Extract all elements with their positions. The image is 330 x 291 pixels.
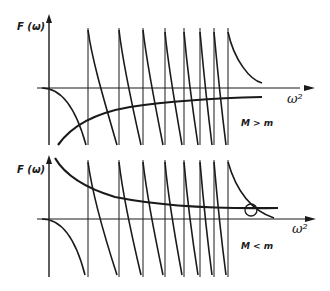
bottom-panel xyxy=(37,155,316,277)
top-x-arrow-icon xyxy=(304,85,315,91)
top-condition-label: M > m xyxy=(241,118,273,128)
intersection-marker-icon xyxy=(245,204,257,216)
top-mass-curve xyxy=(58,97,262,145)
bottom-y-label: F (ω) xyxy=(17,164,45,175)
top-y-arrow-icon xyxy=(46,14,52,23)
diagram: F (ω) ω² M > m F ( xyxy=(0,0,330,291)
top-y-label: F (ω) xyxy=(17,21,45,32)
top-panel xyxy=(37,14,315,145)
bottom-y-arrow-icon xyxy=(46,155,52,164)
top-asymptotes xyxy=(88,28,228,145)
bottom-x-label: ω² xyxy=(292,221,308,236)
top-x-label: ω² xyxy=(287,91,303,106)
bottom-condition-label: M < m xyxy=(241,241,273,251)
